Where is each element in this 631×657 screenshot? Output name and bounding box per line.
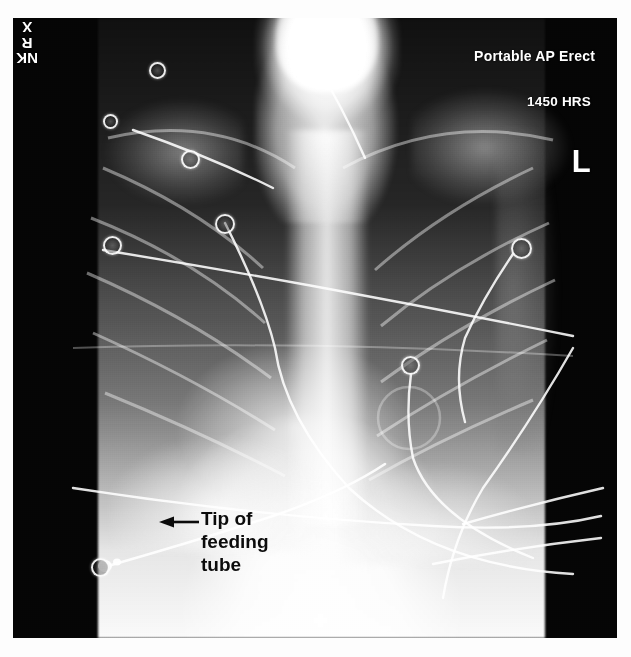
radiograph-page: Portable AP Erect 1450 HRS L NK R X Tip … (0, 0, 631, 657)
radiograph-plate: Portable AP Erect 1450 HRS L NK R X Tip … (13, 18, 617, 638)
ecg-electrode (181, 150, 200, 169)
annotation-feeding-tube-tip: Tip of feeding tube (201, 507, 269, 577)
ecg-electrode (103, 236, 122, 255)
ecg-electrode (91, 558, 110, 577)
ecg-electrode (401, 356, 420, 375)
laterality-marker-left: L (572, 146, 591, 177)
ecg-electrode (215, 214, 235, 234)
left-chest-wall (496, 130, 581, 452)
exam-time-label: 1450 HRS (527, 94, 591, 109)
ecg-electrode (103, 114, 118, 129)
annotation-arrow-icon (159, 515, 199, 529)
technique-label: Portable AP Erect (474, 48, 595, 64)
corner-identification-marker: NK R X (16, 20, 38, 66)
left-hemidiaphragm (339, 415, 544, 564)
ecg-electrode (149, 62, 166, 79)
ecg-electrode (511, 238, 532, 259)
